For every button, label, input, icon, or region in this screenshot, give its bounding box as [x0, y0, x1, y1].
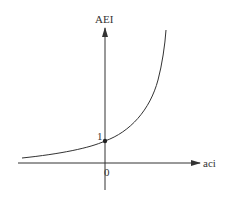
intercept-point: [103, 139, 107, 143]
exponential-curve: [22, 30, 166, 158]
exponential-graph: AEI aci 0 1: [0, 0, 225, 201]
x-axis-label: aci: [203, 157, 216, 169]
y-axis-label: AEI: [95, 13, 114, 25]
origin-label: 0: [104, 166, 110, 178]
intercept-label: 1: [97, 130, 103, 142]
